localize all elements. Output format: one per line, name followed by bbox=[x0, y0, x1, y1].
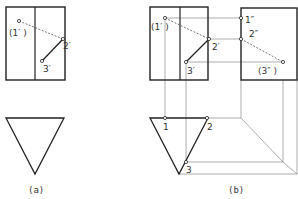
top-view-triangle bbox=[6, 118, 64, 174]
top-point-2-marker bbox=[205, 116, 208, 119]
top-point-3-marker bbox=[184, 160, 187, 163]
caption-a: (a) bbox=[28, 185, 44, 195]
point-3-marker bbox=[184, 60, 187, 63]
point-3-marker bbox=[40, 59, 43, 62]
figure-a: (1′ ) 2′ 3′ (a) bbox=[6, 7, 71, 195]
label-3-prime: 3′ bbox=[187, 66, 195, 76]
figure-b: (1′ ) 2′ 3′ 1″ 2″ (3″ ) 1 2 3 (b) bbox=[150, 7, 297, 195]
side-point-3-marker bbox=[281, 60, 284, 63]
projection-diagram: (1′ ) 2′ 3′ (a) (1′ ) bbox=[0, 0, 298, 199]
side-point-1-marker bbox=[239, 16, 242, 19]
line-2-3 bbox=[42, 39, 63, 61]
line-2-3 bbox=[186, 39, 209, 62]
top-point-1-marker bbox=[163, 116, 166, 119]
label-1: 1 bbox=[163, 122, 169, 132]
top-view-triangle bbox=[150, 118, 208, 174]
caption-b: (b) bbox=[228, 185, 244, 195]
hidden-line-2-3-side bbox=[241, 39, 283, 62]
label-2-prime: 2′ bbox=[212, 42, 220, 52]
label-1-prime: (1′ ) bbox=[9, 28, 27, 38]
point-1-marker bbox=[163, 16, 166, 19]
point-2-marker bbox=[207, 37, 210, 40]
label-3: 3 bbox=[186, 165, 192, 175]
label-2-double-prime: 2″ bbox=[249, 29, 259, 39]
label-3-double-prime: (3″ ) bbox=[258, 66, 277, 76]
hidden-line-1-2 bbox=[165, 18, 209, 39]
side-point-2-marker bbox=[239, 37, 242, 40]
label-3-prime: 3′ bbox=[43, 64, 51, 74]
point-1-marker bbox=[17, 19, 20, 22]
projection-lines bbox=[165, 18, 297, 174]
label-1-prime: (1′ ) bbox=[151, 22, 169, 32]
label-2: 2 bbox=[207, 122, 213, 132]
label-1-double-prime: 1″ bbox=[245, 15, 255, 25]
label-2-prime: 2′ bbox=[63, 41, 71, 51]
